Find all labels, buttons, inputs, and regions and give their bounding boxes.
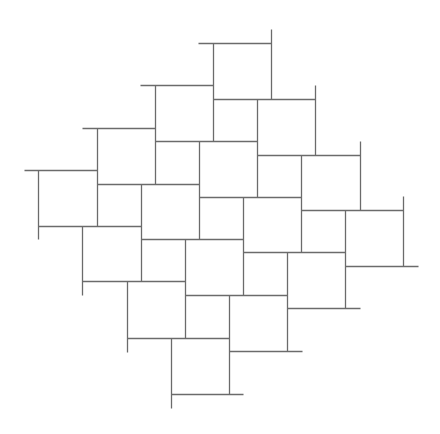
vertical-edges: [39, 30, 404, 409]
tiling-diagram: [0, 0, 440, 434]
horizontal-edges: [25, 44, 419, 395]
